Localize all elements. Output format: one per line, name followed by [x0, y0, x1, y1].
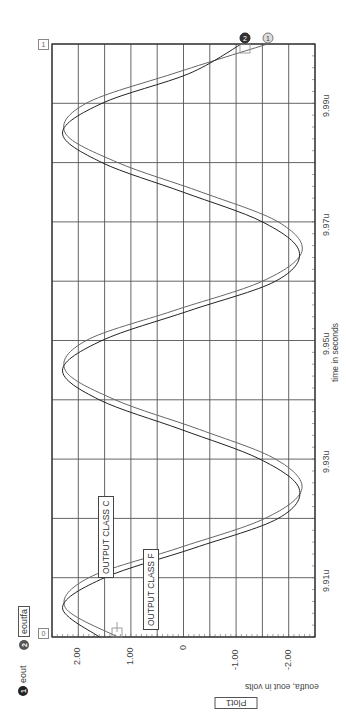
plot-title-text: Plot1 [215, 697, 258, 709]
trace-marker-1-label: 1 [266, 35, 270, 42]
corner-end-marker[interactable]: 1 [38, 39, 49, 50]
annotation-output-class-f: OUTPUT CLASS F [143, 549, 159, 630]
x-axis-label: time in seconds [330, 323, 340, 382]
annotation-output-class-c-text: OUTPUT CLASS C [101, 500, 111, 574]
trace-marker-1[interactable]: 1 [263, 33, 273, 43]
plot-area: 2 1 [0, 0, 346, 719]
annotation-output-class-c: OUTPUT CLASS C [98, 496, 114, 578]
voltage-tick-label: -2.00 [283, 649, 293, 670]
legend-label-eoutfa: eoutfa [18, 606, 30, 637]
corner-start-label: 0 [42, 630, 46, 637]
corner-end-label: 1 [42, 41, 46, 48]
corner-start-marker[interactable]: 0 [38, 628, 49, 639]
time-tick-label: 9.91u [321, 569, 331, 592]
annotation-output-class-f-text: OUTPUT CLASS F [146, 553, 156, 626]
legend-item-eoutfa[interactable]: 2 eoutfa [18, 606, 30, 650]
y-axis-label: eoutfa, eout in volts [245, 682, 319, 692]
time-tick-label: 9.93u [321, 451, 331, 474]
voltage-tick-label: 2.00 [72, 647, 82, 665]
legend-marker-2-icon: 2 [19, 640, 29, 650]
voltage-tick-label: -1.00 [230, 649, 240, 670]
grid-lines [52, 44, 315, 637]
time-tick-label: 9.99u [321, 95, 331, 118]
trace-marker-2-label: 2 [243, 35, 247, 42]
trace-marker-2[interactable]: 2 [240, 33, 250, 43]
voltage-tick-label: 0 [178, 645, 188, 650]
legend-label-eout: eout [18, 665, 28, 683]
legend-item-eout[interactable]: 1 eout [18, 665, 28, 696]
voltage-tick-label: 1.00 [125, 647, 135, 665]
time-tick-label: 9.97u [321, 213, 331, 236]
plot-title: Plot1 [215, 698, 258, 708]
legend-marker-1-icon: 1 [18, 686, 28, 696]
